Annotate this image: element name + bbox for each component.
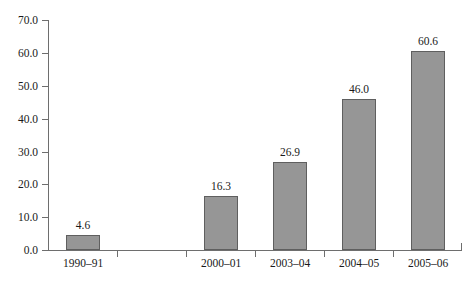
x-axis-label-2005-06: 2005–06 [398, 258, 458, 270]
bar-value-label: 16.3 [191, 181, 251, 193]
y-tick-label: 40.0 [0, 114, 38, 126]
y-tick-label: 0.0 [0, 245, 38, 257]
x-axis-label-2004-05: 2004–05 [329, 258, 389, 270]
y-tick-label: 10.0 [0, 212, 38, 224]
y-tick-mark [42, 20, 48, 21]
y-tick-label: 70.0 [0, 15, 38, 27]
bar-2000-01 [204, 196, 238, 250]
y-tick-mark [42, 250, 48, 251]
x-axis-end-tick [461, 243, 462, 251]
bar-2004-05 [342, 99, 376, 250]
x-axis-label-2000-01: 2000–01 [191, 258, 251, 270]
y-tick-mark [42, 217, 48, 218]
y-tick-label: 50.0 [0, 81, 38, 93]
y-tick-mark [42, 53, 48, 54]
bar-value-label: 60.6 [398, 36, 458, 48]
y-tick-label: 60.0 [0, 48, 38, 60]
x-tick-mark [186, 250, 187, 257]
x-axis-label-2003-04: 2003–04 [260, 258, 320, 270]
bar-value-label: 4.6 [53, 220, 113, 232]
x-tick-mark [255, 250, 256, 257]
bar-2005-06 [411, 51, 445, 250]
y-tick-mark [42, 86, 48, 87]
y-tick-label: 20.0 [0, 179, 38, 191]
bar-value-label: 46.0 [329, 84, 389, 96]
y-axis-line [48, 20, 49, 251]
y-tick-mark [42, 184, 48, 185]
bar-chart: 70.0 60.0 50.0 40.0 30.0 20.0 10.0 0.0 4… [0, 0, 476, 283]
x-axis-label-1990-91: 1990–91 [53, 258, 113, 270]
bar-value-label: 26.9 [260, 147, 320, 159]
bar-1990-91 [66, 235, 100, 250]
y-tick-label: 30.0 [0, 147, 38, 159]
y-tick-mark [42, 152, 48, 153]
y-tick-mark [42, 119, 48, 120]
x-tick-mark [393, 250, 394, 257]
x-tick-mark [117, 250, 118, 257]
bar-2003-04 [273, 162, 307, 250]
x-tick-mark [324, 250, 325, 257]
